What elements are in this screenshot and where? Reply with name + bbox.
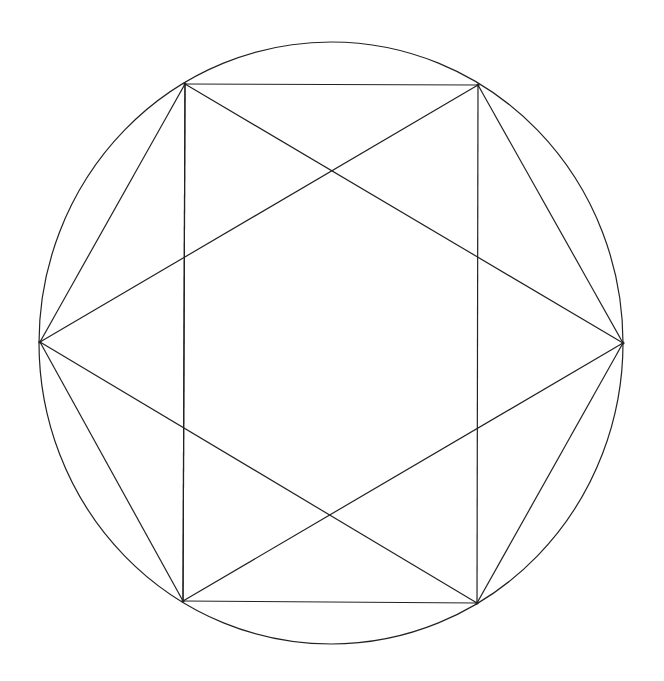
segment-top_right-left — [40, 85, 478, 342]
segment-left-bottom_left — [40, 342, 183, 601]
segment-top_left-top_right — [185, 84, 478, 85]
vertex-top_right — [476, 83, 479, 86]
vertex-left — [38, 340, 41, 343]
segment-right-bottom_left — [183, 343, 623, 601]
segment-left-top_left — [40, 84, 185, 342]
segment-top_left-right — [185, 84, 623, 343]
circumscribed-circle — [39, 42, 623, 644]
segment-left-bottom_right — [40, 342, 477, 603]
vertex-top_left — [183, 82, 186, 85]
segment-top_right-bottom_right — [477, 85, 478, 603]
segment-bottom_left-bottom_right — [183, 601, 477, 603]
vertex-right — [621, 341, 624, 344]
segment-right-bottom_right — [477, 343, 623, 603]
chord-lines — [38, 82, 624, 604]
geometry-diagram — [0, 0, 664, 681]
segment-right-top_right — [478, 85, 623, 343]
vertex-bottom_left — [181, 599, 184, 602]
vertex-bottom_right — [475, 601, 478, 604]
segment-bottom_left-top_left — [183, 84, 185, 601]
